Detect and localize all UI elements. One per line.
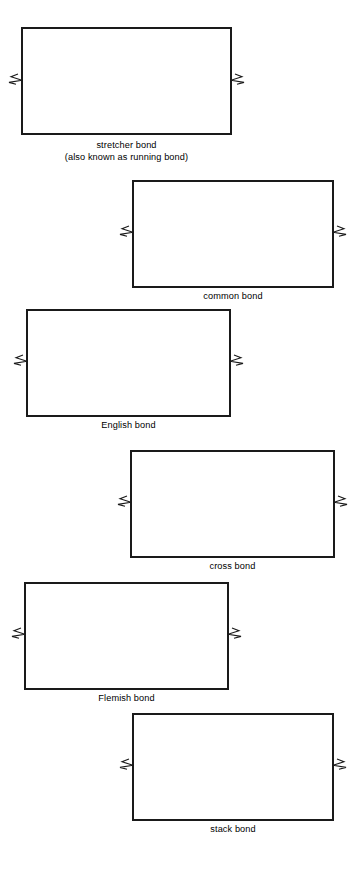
wall-drawing-stack-bond bbox=[117, 698, 349, 836]
break-symbol-right bbox=[228, 628, 241, 638]
break-symbol-right bbox=[333, 759, 346, 769]
wall-drawing-stretcher-bond bbox=[6, 12, 247, 150]
wall-drawing-cross-bond bbox=[115, 435, 350, 573]
break-symbol-right bbox=[334, 496, 347, 506]
bond-caption-english-bond: English bond bbox=[0, 419, 307, 431]
break-symbol-right bbox=[230, 355, 243, 365]
caption-line: English bond bbox=[0, 419, 307, 431]
break-symbol-left bbox=[12, 628, 25, 638]
break-symbol-right bbox=[231, 74, 244, 84]
wall-drawing-flemish-bond bbox=[9, 567, 244, 705]
caption-line: stack bond bbox=[55, 823, 357, 835]
caption-line: (also known as running bond) bbox=[0, 151, 305, 163]
bond-caption-stack-bond: stack bond bbox=[55, 823, 357, 835]
break-symbol-left bbox=[120, 759, 133, 769]
break-symbol-right bbox=[333, 226, 346, 236]
break-symbol-left bbox=[14, 355, 27, 365]
break-symbol-left bbox=[9, 74, 22, 84]
break-symbol-left bbox=[120, 226, 133, 236]
masonry-bond-diagram-sheet: stretcher bond(also known as running bon… bbox=[0, 0, 357, 869]
caption-line: stretcher bond bbox=[0, 139, 305, 151]
wall-drawing-english-bond bbox=[11, 294, 246, 432]
break-symbol-left bbox=[118, 496, 131, 506]
bond-caption-stretcher-bond: stretcher bond(also known as running bon… bbox=[0, 139, 305, 163]
wall-drawing-common-bond bbox=[117, 165, 349, 303]
